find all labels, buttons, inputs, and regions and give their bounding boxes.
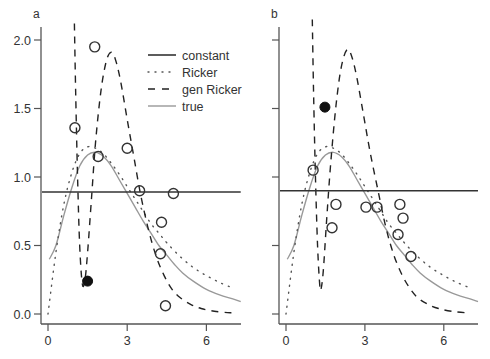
y-tick-label: 2.0: [14, 34, 31, 48]
legend-label: constant: [182, 49, 230, 63]
y-tick-label: 1.5: [14, 102, 31, 116]
data-point-open: [90, 42, 100, 52]
panel-label: b: [271, 7, 278, 21]
data-point-filled: [320, 102, 330, 112]
x-tick-label: 3: [124, 334, 131, 348]
data-point-open: [308, 165, 318, 175]
x-tick-label: 6: [440, 334, 447, 348]
data-point-open: [331, 199, 341, 209]
series-gen-ricker: [312, 19, 470, 312]
data-point-open: [361, 202, 371, 212]
data-point-open: [393, 230, 403, 240]
data-point-open: [160, 301, 170, 311]
legend: constantRickergen Rickertrue: [148, 49, 242, 114]
panel-label: a: [33, 7, 40, 21]
data-point-open: [122, 143, 132, 153]
x-tick-label: 0: [45, 334, 52, 348]
data-point-open: [70, 123, 80, 133]
y-tick-label: 0.5: [14, 239, 31, 253]
data-point-open: [406, 251, 416, 261]
x-tick-label: 6: [203, 334, 210, 348]
figure: a0.00.51.01.52.0036 b036 constantRickerg…: [0, 0, 490, 359]
plot-area: [278, 19, 478, 314]
data-point-open: [398, 213, 408, 223]
x-tick-label: 0: [283, 334, 290, 348]
x-tick-label: 3: [361, 334, 368, 348]
data-point-open: [168, 188, 178, 198]
series-true: [49, 152, 240, 301]
y-tick-label: 1.0: [14, 171, 31, 185]
panel-b: b036: [271, 7, 478, 348]
legend-label: Ricker: [182, 66, 217, 80]
legend-label: true: [182, 100, 204, 114]
data-point-open: [157, 217, 167, 227]
data-point-open: [155, 249, 165, 259]
data-point-open: [395, 199, 405, 209]
legend-label: gen Ricker: [182, 83, 242, 97]
y-tick-label: 0.0: [14, 308, 31, 322]
data-point-filled: [83, 276, 93, 286]
data-point-open: [327, 223, 337, 233]
